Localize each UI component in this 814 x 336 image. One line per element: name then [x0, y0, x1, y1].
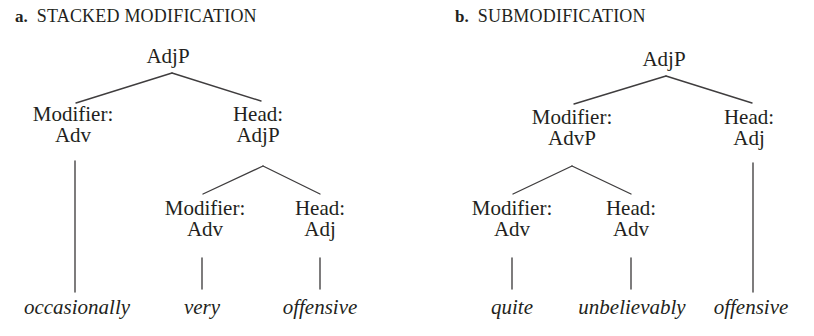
branch-a-inner-right — [263, 166, 320, 194]
node-b-inner-head-category: Adv — [606, 219, 656, 240]
leaf-a-very: very — [184, 297, 220, 318]
node-b-head-role: Head: — [724, 107, 774, 128]
node-b-inner-modifier: Modifier: Adv — [472, 198, 552, 241]
leaf-a-offensive: offensive — [283, 297, 358, 318]
node-a-head-category: AdjP — [233, 125, 283, 146]
node-a-inner-head-role: Head: — [295, 198, 345, 219]
node-a-head: Head: AdjP — [233, 104, 283, 147]
node-b-inner-head-role: Head: — [606, 198, 656, 219]
branch-a-root-left — [76, 73, 172, 103]
node-a-root-label: AdjP — [146, 46, 189, 67]
node-a-inner-modifier-role: Modifier: — [165, 198, 245, 219]
panel-b-letter: b. — [455, 7, 469, 26]
node-a-modifier-category: Adv — [33, 125, 113, 146]
branch-b-inner-left — [513, 166, 572, 194]
branch-b-root-left — [574, 76, 666, 104]
tree-branch-lines — [0, 0, 814, 336]
node-b-root: AdjP — [642, 49, 685, 70]
node-a-inner-head: Head: Adj — [295, 198, 345, 241]
node-a-inner-modifier: Modifier: Adv — [165, 198, 245, 241]
node-a-modifier: Modifier: Adv — [33, 104, 113, 147]
syntax-tree-figure: a.STACKED MODIFICATION AdjP Modifier: Ad… — [0, 0, 814, 336]
branch-b-root-right — [666, 76, 752, 103]
node-b-modifier-category: AdvP — [532, 128, 612, 149]
branch-a-root-right — [172, 73, 261, 101]
panel-a-letter: a. — [15, 7, 28, 26]
node-a-head-role: Head: — [233, 104, 283, 125]
node-a-modifier-role: Modifier: — [33, 104, 113, 125]
panel-a-title: STACKED MODIFICATION — [37, 6, 257, 26]
node-b-modifier: Modifier: AdvP — [532, 107, 612, 150]
node-b-inner-head: Head: Adv — [606, 198, 656, 241]
node-a-inner-modifier-category: Adv — [165, 219, 245, 240]
panel-b-caption: b.SUBMODIFICATION — [455, 7, 646, 25]
leaf-b-unbelievably: unbelievably — [578, 297, 685, 318]
node-b-head-category: Adj — [724, 128, 774, 149]
leaf-b-offensive: offensive — [714, 297, 789, 318]
leaf-b-quite: quite — [491, 297, 533, 318]
node-b-inner-modifier-role: Modifier: — [472, 198, 552, 219]
branch-b-inner-right — [572, 166, 631, 194]
node-b-root-label: AdjP — [642, 49, 685, 70]
node-a-root: AdjP — [146, 46, 189, 67]
node-b-head: Head: Adj — [724, 107, 774, 150]
branch-a-inner-left — [203, 166, 263, 194]
node-b-modifier-role: Modifier: — [532, 107, 612, 128]
panel-a-caption: a.STACKED MODIFICATION — [15, 7, 257, 25]
leaf-a-occasionally: occasionally — [24, 297, 130, 318]
node-b-inner-modifier-category: Adv — [472, 219, 552, 240]
node-a-inner-head-category: Adj — [295, 219, 345, 240]
panel-b-title: SUBMODIFICATION — [478, 6, 646, 26]
